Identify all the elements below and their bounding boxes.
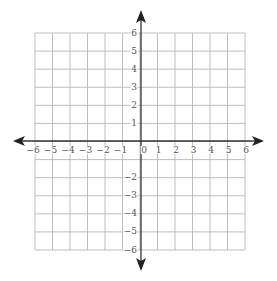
y-tick-label: −3 <box>124 190 138 200</box>
y-tick-label: −4 <box>124 208 138 218</box>
x-tick-label: −4 <box>61 145 75 155</box>
y-tick-label: 3 <box>131 82 137 92</box>
x-tick-label: −2 <box>96 145 109 155</box>
x-tick-labels: −6−5−4−3−2−10123456 <box>26 145 250 155</box>
x-tick-label: −5 <box>44 145 58 155</box>
x-tick-label: 3 <box>191 145 197 155</box>
y-tick-label: 1 <box>131 118 137 128</box>
coordinate-plane: −6−5−4−3−2−10123456 654321−2−3−4−5−6 <box>0 0 277 281</box>
y-tick-label: 4 <box>131 64 137 74</box>
x-tick-label: 6 <box>243 145 249 155</box>
y-tick-label: −5 <box>124 226 138 236</box>
y-tick-label: −6 <box>124 245 138 255</box>
y-tick-label: 2 <box>131 100 137 110</box>
y-tick-label: −2 <box>124 172 137 182</box>
y-tick-label: 6 <box>131 28 137 38</box>
x-tick-label: −1 <box>114 145 127 155</box>
x-tick-label: 2 <box>173 145 179 155</box>
x-tick-label: −6 <box>26 145 40 155</box>
x-tick-label: 5 <box>226 145 232 155</box>
x-tick-label: −3 <box>79 145 93 155</box>
y-tick-label: 5 <box>131 46 137 56</box>
x-tick-label: 0 <box>141 145 147 155</box>
x-tick-label: 1 <box>156 145 162 155</box>
x-tick-label: 4 <box>208 145 214 155</box>
